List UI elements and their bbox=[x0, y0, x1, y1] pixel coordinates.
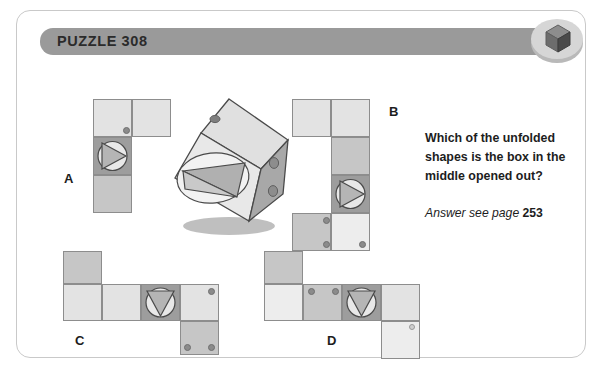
cube-badge bbox=[529, 17, 585, 69]
net-dot bbox=[323, 217, 330, 224]
cube-right-dot bbox=[268, 186, 277, 197]
circle-triangle-right-icon bbox=[94, 138, 131, 174]
page-title: PUZZLE 308 bbox=[57, 33, 148, 49]
header-bar: PUZZLE 308 bbox=[40, 28, 571, 55]
net-dot bbox=[208, 344, 215, 351]
net-dot bbox=[332, 288, 339, 295]
circle-triangle-down-icon bbox=[343, 285, 380, 320]
answer-reference: Answer see page 253 bbox=[425, 206, 595, 220]
net-square bbox=[264, 284, 303, 321]
net-dot bbox=[323, 241, 330, 248]
option-c-label: C bbox=[75, 333, 84, 348]
question-line-2: shapes is the box in the bbox=[425, 148, 585, 167]
net-dot bbox=[308, 288, 315, 295]
net-square bbox=[381, 284, 420, 321]
circle-triangle-right-icon bbox=[332, 176, 369, 212]
cube-shadow bbox=[183, 217, 275, 235]
tilted-cube-figure bbox=[157, 93, 302, 238]
option-d-net[interactable] bbox=[264, 251, 429, 351]
answer-page-number: 253 bbox=[523, 206, 543, 220]
cube-right-dot bbox=[269, 158, 278, 169]
answer-prefix: Answer see page bbox=[425, 206, 523, 220]
option-a-label: A bbox=[64, 171, 73, 186]
net-square bbox=[331, 137, 370, 175]
net-dot bbox=[208, 288, 215, 295]
option-c-net[interactable] bbox=[63, 251, 228, 351]
net-square-motif bbox=[93, 137, 132, 175]
net-square bbox=[331, 99, 370, 137]
question-line-1: Which of the unfolded bbox=[425, 129, 585, 148]
question-text: Which of the unfolded shapes is the box … bbox=[425, 129, 585, 186]
net-dot bbox=[184, 344, 191, 351]
question-line-3: middle opened out? bbox=[425, 167, 585, 186]
puzzle-card: PUZZLE 308 Which of the unfolded shapes … bbox=[16, 10, 586, 358]
cube-icon bbox=[543, 23, 573, 55]
option-b-label: B bbox=[389, 104, 398, 119]
net-dot bbox=[409, 324, 415, 330]
net-square bbox=[102, 284, 141, 321]
puzzle-page: PUZZLE 308 Which of the unfolded shapes … bbox=[0, 0, 603, 378]
net-dot bbox=[359, 241, 366, 248]
option-d-label: D bbox=[327, 333, 336, 348]
net-square bbox=[63, 284, 102, 321]
net-square bbox=[63, 251, 102, 284]
circle-triangle-down-icon bbox=[142, 285, 179, 320]
net-square-motif bbox=[331, 175, 370, 213]
net-square-motif bbox=[141, 284, 180, 321]
net-square bbox=[93, 175, 132, 213]
net-square bbox=[264, 251, 303, 284]
net-square-motif bbox=[342, 284, 381, 321]
net-dot bbox=[123, 127, 130, 134]
cube-top-dot bbox=[210, 115, 220, 122]
